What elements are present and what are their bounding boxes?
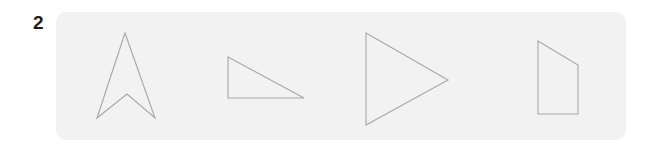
shape-diagram-root: 2	[0, 0, 646, 150]
shape-row-panel	[56, 12, 626, 140]
item-number-label: 2	[33, 13, 44, 33]
